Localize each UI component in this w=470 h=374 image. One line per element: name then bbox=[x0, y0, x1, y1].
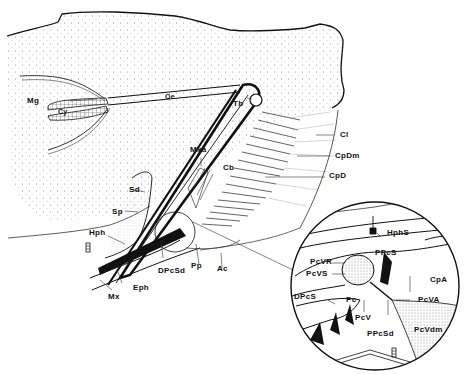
label-sp: Sp bbox=[112, 208, 123, 216]
label-pcvs: PcVS bbox=[306, 270, 328, 278]
head-body bbox=[7, 12, 344, 238]
label-oe: Oe bbox=[165, 93, 175, 100]
label-hphs: HphS bbox=[387, 229, 409, 237]
label-pcvr: PcVR bbox=[310, 258, 332, 266]
label-pcvdm: PcVdm bbox=[414, 326, 443, 334]
label-pc: Pc bbox=[346, 296, 356, 304]
label-cy: Cy bbox=[58, 108, 68, 115]
label-tb: Tb bbox=[233, 100, 243, 108]
label-ppcs: PPcS bbox=[375, 249, 397, 257]
label-dpcs: DPcS bbox=[294, 293, 316, 301]
label-cb: Cb bbox=[223, 164, 234, 172]
label-pcva: PcVA bbox=[418, 296, 440, 304]
label-cpd: CpD bbox=[329, 172, 346, 180]
label-hph: Hph bbox=[89, 229, 105, 237]
scale-bar-icon bbox=[86, 243, 90, 252]
label-mx: Mx bbox=[108, 293, 120, 301]
label-eph: Eph bbox=[133, 284, 149, 292]
label-ac: Ac bbox=[217, 265, 228, 273]
label-pp: Pp bbox=[191, 262, 202, 270]
anatomical-figure bbox=[0, 0, 470, 374]
label-cpdm: CpDm bbox=[335, 152, 360, 160]
label-cl: Cl bbox=[340, 131, 349, 139]
label-pcv: PcV bbox=[355, 314, 371, 322]
label-dpcsd: DPcSd bbox=[158, 267, 185, 275]
label-cpa: CpA bbox=[430, 276, 447, 284]
label-sd: Sd bbox=[129, 186, 140, 194]
inset-connector-line bbox=[193, 222, 293, 270]
label-mxa: Mxa bbox=[190, 146, 206, 154]
label-ppcsd: PPcSd bbox=[367, 330, 394, 338]
inset-view bbox=[290, 202, 460, 370]
label-mg: Mg bbox=[27, 97, 39, 105]
